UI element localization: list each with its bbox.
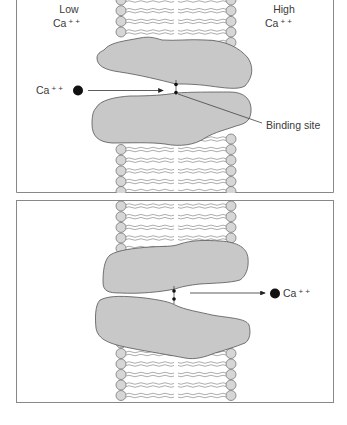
calcium-ion-released [270, 289, 280, 299]
label-low: Low [59, 3, 79, 15]
panel-1: Low Ca+ + High Ca+ + Ca+ + Binding site [16, 0, 334, 199]
panel-2: Ca+ + [17, 201, 334, 425]
label-high-ca: Ca+ + [265, 17, 292, 29]
label-high: High [273, 3, 295, 15]
calcium-ion-incoming [73, 86, 83, 96]
binding-site-dot [172, 289, 176, 293]
label-low-ca: Ca+ + [53, 17, 80, 29]
pump-protein-upper [97, 37, 252, 88]
label-binding-site: Binding site [266, 119, 320, 131]
panel-2-frame [17, 201, 334, 403]
calcium-pump-diagram: Low Ca+ + High Ca+ + Ca+ + Binding site [0, 0, 347, 425]
binding-site-dot [174, 83, 178, 87]
binding-site-dot [172, 297, 176, 301]
label-ion-released: Ca+ + [283, 287, 310, 299]
binding-site-dot [174, 91, 178, 95]
label-ion-incoming: Ca+ + [36, 84, 63, 96]
